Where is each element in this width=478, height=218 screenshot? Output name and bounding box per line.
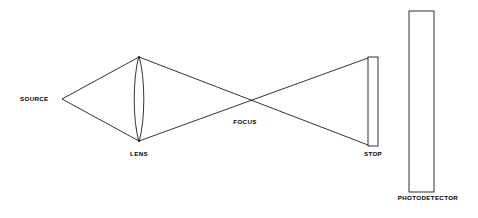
optics-schematic-canvas	[0, 0, 478, 218]
lens-icon	[134, 56, 144, 142]
stop-icon	[368, 57, 378, 146]
focus-label: FOCUS	[233, 119, 256, 125]
lens-label: LENS	[130, 151, 148, 157]
stop-label: STOP	[364, 151, 382, 157]
photodetector-element	[409, 11, 434, 192]
ray-bundle-source-to-lens	[62, 57, 139, 141]
ray-upper-source-to-lens	[62, 57, 139, 99]
ray-bundle-lens-to-stop	[139, 57, 368, 145]
lens-element	[134, 56, 144, 142]
source-label: SOURCE	[20, 96, 49, 102]
photodetector-icon	[409, 11, 434, 192]
ray-lower-source-to-lens	[62, 99, 139, 141]
photodetector-label: PHOTODETECTOR	[398, 195, 458, 201]
stop-element	[368, 57, 378, 146]
optical-diagram: SOURCE LENS FOCUS STOP PHOTODETECTOR	[0, 0, 478, 218]
